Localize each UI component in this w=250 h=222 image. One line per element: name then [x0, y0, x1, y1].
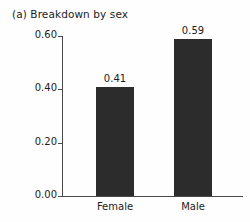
- bar-female[interactable]: 0.41: [96, 87, 134, 196]
- y-tick-label: 0.60: [35, 29, 57, 40]
- x-tick-label-male: Male: [181, 201, 205, 212]
- y-tick-label: 0.40: [35, 82, 57, 93]
- y-tick-label: 0.00: [35, 189, 57, 200]
- y-tick-mark: [58, 196, 62, 197]
- y-tick-label: 0.20: [35, 136, 57, 147]
- y-tick-mark: [58, 89, 62, 90]
- y-tick-mark: [58, 143, 62, 144]
- x-tick-label-female: Female: [97, 201, 133, 212]
- bar-chart-figure: (a) Breakdown by sex Relative frequency …: [0, 0, 250, 222]
- x-axis-line: [62, 196, 243, 197]
- bar-male[interactable]: 0.59: [174, 39, 212, 196]
- plot-area: 0.60 0.40 0.20 0.00 0.41 0.59 Female Mal…: [62, 36, 243, 196]
- y-axis-line: [62, 36, 63, 196]
- bar-value-label: 0.41: [104, 73, 126, 84]
- chart-title: (a) Breakdown by sex: [12, 8, 128, 20]
- y-tick-mark: [58, 36, 62, 37]
- bar-value-label: 0.59: [182, 25, 204, 36]
